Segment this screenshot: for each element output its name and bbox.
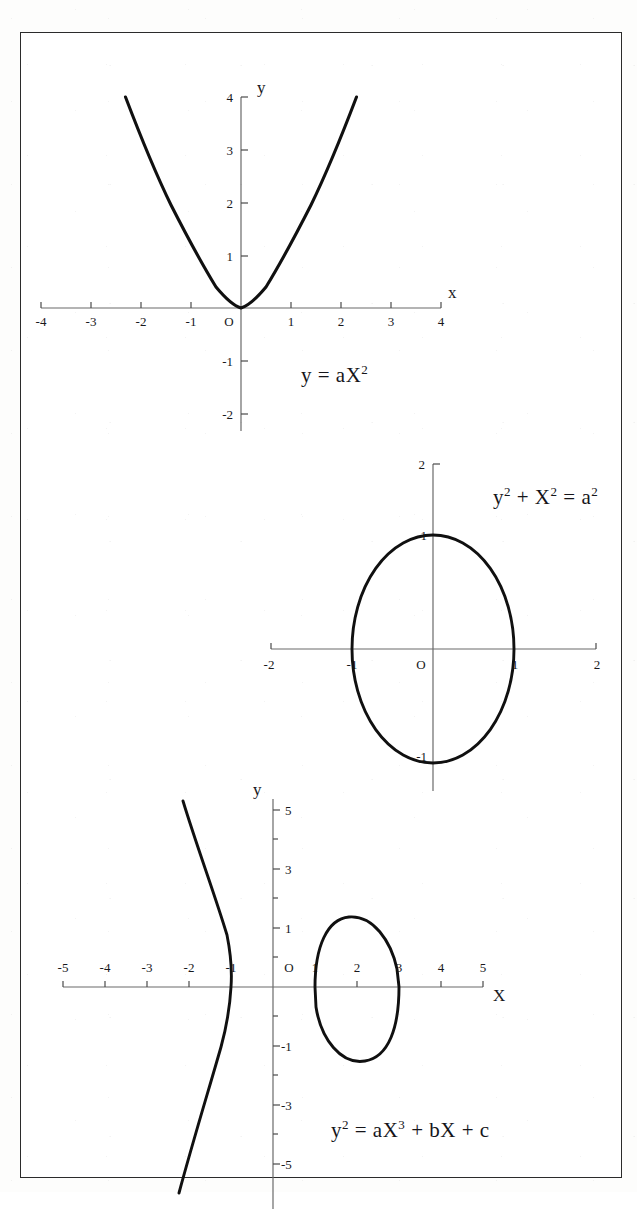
- eq3-t2: + bX: [411, 1118, 456, 1142]
- eq2-t1-base: y: [493, 485, 504, 509]
- elliptic-ytick-5: 5: [285, 803, 292, 818]
- parabola-ytick-1: 1: [227, 249, 234, 264]
- eq1-rhs-base: aX: [336, 363, 362, 387]
- elliptic-xtick-2: 2: [354, 960, 361, 975]
- eq3-t1-base: aX: [373, 1118, 399, 1142]
- parabola-y-ticks: [241, 97, 248, 414]
- eq1-equals: =: [318, 363, 330, 387]
- elliptic-xtick-4: 4: [438, 960, 445, 975]
- eq2-rhs-base: a: [581, 485, 591, 509]
- elliptic-equation-caption: y2 = aX3 + bX + c: [331, 1118, 490, 1143]
- parabola-xtick--4: -4: [36, 314, 47, 329]
- parabola-y-axis-label: y: [257, 78, 266, 97]
- elliptic-ytick--3: -3: [281, 1098, 292, 1113]
- parabola-xtick-4: 4: [438, 314, 445, 329]
- parabola-xtick-1: 1: [288, 314, 295, 329]
- parabola-ytick-3: 3: [227, 143, 234, 158]
- parabola-xtick-3: 3: [388, 314, 395, 329]
- circle-ytick-2: 2: [419, 457, 426, 472]
- elliptic-ytick--5: -5: [281, 1157, 292, 1172]
- parabola-equation-caption: y = aX2: [301, 363, 368, 388]
- elliptic-xtick--5: -5: [58, 960, 69, 975]
- parabola-ytick-2: 2: [227, 196, 234, 211]
- elliptic-ytick--1: -1: [281, 1039, 292, 1054]
- parabola-xtick-2: 2: [338, 314, 345, 329]
- eq2-t2-exp: 2: [551, 484, 558, 499]
- elliptic-xtick-5: 5: [480, 960, 487, 975]
- elliptic-ytick-1: 1: [285, 921, 292, 936]
- elliptic-xtick--3: -3: [142, 960, 153, 975]
- elliptic-x-axis-label: X: [493, 986, 505, 1005]
- elliptic-unbounded-branch: [179, 801, 231, 1193]
- elliptic-ytick-3: 3: [285, 862, 292, 877]
- eq3-lhs-base: y: [331, 1118, 342, 1142]
- parabola-xtick--1: -1: [186, 314, 197, 329]
- eq3-t3: + c: [462, 1118, 490, 1142]
- eq1-lhs: y: [301, 363, 312, 387]
- eq2-rhs-exp: 2: [591, 484, 598, 499]
- eq2-plus: +: [517, 485, 529, 509]
- circle-xtick--2: -2: [264, 657, 275, 672]
- elliptic-xtick--4: -4: [100, 960, 111, 975]
- parabola-xtick--2: -2: [136, 314, 147, 329]
- circle-equation-caption: y2 + X2 = a2: [493, 485, 598, 510]
- eq3-t1-exp: 3: [398, 1117, 405, 1132]
- page-border-frame: -4 -3 -2 -1 1 2 3 4 O 4 3 2 1 -1 -2 y x: [20, 32, 622, 1178]
- parabola-ytick-4: 4: [227, 90, 234, 105]
- eq3-equals: =: [355, 1118, 367, 1142]
- circle-figure: -2 -1 1 2 O 2 1 -1: [1, 421, 637, 791]
- circle-origin-label: O: [416, 657, 425, 672]
- parabola-ytick--1: -1: [222, 354, 233, 369]
- elliptic-curve-figure: -5 -4 -3 -2 -1 1 2 3 4 5 O 5 3 1 -1 -3 -…: [1, 769, 637, 1213]
- parabola-xtick--3: -3: [86, 314, 97, 329]
- parabola-x-axis-label: x: [448, 283, 457, 302]
- elliptic-y-axis-label: y: [253, 780, 262, 799]
- elliptic-xtick--2: -2: [184, 960, 195, 975]
- eq2-equals: =: [563, 485, 575, 509]
- elliptic-origin-label: O: [284, 960, 293, 975]
- parabola-ytick--2: -2: [222, 407, 233, 422]
- eq2-t2-base: X: [535, 485, 551, 509]
- parabola-origin-label: O: [224, 314, 233, 329]
- eq3-lhs-exp: 2: [342, 1117, 349, 1132]
- elliptic-oval-component: [315, 917, 399, 1062]
- eq2-t1-exp: 2: [504, 484, 511, 499]
- eq1-rhs-exp: 2: [361, 362, 368, 377]
- circle-xtick-2: 2: [594, 657, 601, 672]
